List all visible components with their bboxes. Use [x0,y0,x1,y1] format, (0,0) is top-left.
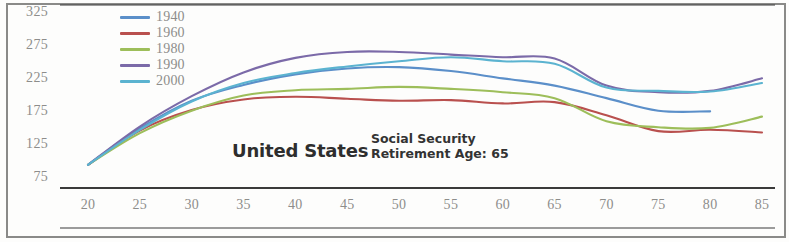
legend-swatch-1980 [120,48,150,51]
legend-swatch-2000 [120,80,150,83]
legend-label-1990: 1990 [156,57,185,73]
legend-label-1980: 1980 [156,41,185,57]
country-annotation: United States [232,140,368,161]
legend-item-2000[interactable]: 2000 [120,73,230,89]
y-tick-label-125: 125 [8,136,48,152]
legend-label-1960: 1960 [156,25,185,41]
y-tick-label-275: 275 [8,37,48,53]
x-tick-label-70: 70 [589,197,623,213]
x-tick-label-30: 30 [175,197,209,213]
x-tick-label-65: 65 [538,197,572,213]
y-tick-label-75: 75 [8,169,48,185]
x-tick-label-40: 40 [278,197,312,213]
legend-item-1990[interactable]: 1990 [120,57,230,73]
x-tick-label-45: 45 [330,197,364,213]
x-tick-label-60: 60 [486,197,520,213]
x-tick-label-50: 50 [382,197,416,213]
x-tick-label-25: 25 [123,197,157,213]
chart-screenshot: 32527522517512575 2025303540455055606570… [0,0,789,242]
retirement-note-line-1: Social Security [371,131,509,146]
x-tick-label-55: 55 [434,197,468,213]
x-tick-label-20: 20 [71,197,105,213]
legend-swatch-1960 [120,32,150,35]
x-tick-label-80: 80 [693,197,727,213]
x-tick-label-75: 75 [641,197,675,213]
legend-item-1980[interactable]: 1980 [120,41,230,57]
y-tick-label-175: 175 [8,103,48,119]
x-tick-label-85: 85 [745,197,779,213]
legend-swatch-1940 [120,16,150,19]
y-tick-label-325: 325 [8,4,48,20]
legend-item-1960[interactable]: 1960 [120,25,230,41]
legend-item-1940[interactable]: 1940 [120,9,230,25]
x-tick-label-35: 35 [227,197,261,213]
retirement-age-annotation: Social Security Retirement Age: 65 [371,131,509,161]
legend-swatch-1990 [120,64,150,67]
legend-label-2000: 2000 [156,73,185,89]
y-tick-label-225: 225 [8,70,48,86]
chart-legend: 19401960198019902000 [120,9,230,89]
retirement-note-line-2: Retirement Age: 65 [371,146,509,161]
legend-label-1940: 1940 [156,9,185,25]
